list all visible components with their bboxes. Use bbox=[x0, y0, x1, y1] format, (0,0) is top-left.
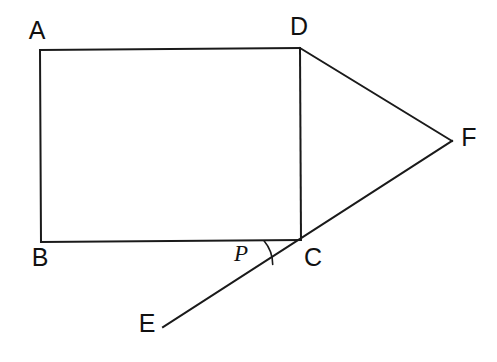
vertex-label-b: B bbox=[32, 243, 49, 271]
edge-ab-left bbox=[40, 50, 41, 242]
angle-label-p: P bbox=[233, 241, 248, 266]
vertex-label-f: F bbox=[461, 123, 476, 151]
geometry-diagram: A D F B C E P bbox=[0, 0, 497, 362]
vertex-label-e: E bbox=[139, 309, 156, 337]
edge-dc-right bbox=[300, 48, 301, 240]
diagram-background bbox=[0, 0, 497, 362]
geometry-canvas: A D F B C E P bbox=[0, 0, 497, 362]
vertex-label-d: D bbox=[290, 12, 308, 40]
vertex-label-a: A bbox=[29, 16, 46, 44]
vertex-label-c: C bbox=[304, 243, 322, 271]
